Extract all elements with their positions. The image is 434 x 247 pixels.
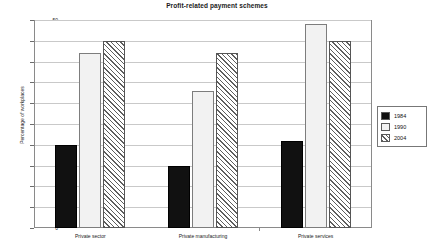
bar-group bbox=[147, 20, 260, 228]
bar-1984-1[interactable] bbox=[55, 145, 77, 228]
legend-label-1984: 1984 bbox=[394, 112, 406, 120]
bar-1990-1[interactable] bbox=[79, 53, 101, 228]
legend-swatch-icon-1990 bbox=[381, 123, 390, 131]
x-axis-label: Private services bbox=[259, 233, 372, 239]
x-axis-separator bbox=[259, 228, 260, 231]
y-tick-mark bbox=[30, 228, 34, 229]
bar-1984-2[interactable] bbox=[168, 166, 190, 228]
y-axis-title: Percentage of workplaces bbox=[19, 55, 25, 175]
x-axis-label: Private manufacturing bbox=[147, 233, 260, 239]
legend-swatch-icon-1984 bbox=[381, 112, 390, 120]
x-axis-label: Private sector bbox=[34, 233, 147, 239]
bar-2004-1[interactable] bbox=[103, 41, 125, 228]
legend-label-2004: 2004 bbox=[394, 134, 406, 142]
bar-2004-3[interactable] bbox=[329, 41, 351, 228]
legend-item-1990[interactable]: 1990 bbox=[381, 121, 423, 132]
bar-2004-2[interactable] bbox=[216, 53, 238, 228]
bar-1984-3[interactable] bbox=[281, 141, 303, 228]
bar-1990-3[interactable] bbox=[305, 24, 327, 228]
legend-item-1984[interactable]: 1984 bbox=[381, 110, 423, 121]
bar-group bbox=[259, 20, 372, 228]
bar-group bbox=[34, 20, 147, 228]
chart-container: Profit-related payment schemes Percentag… bbox=[0, 0, 434, 247]
legend-swatch-icon-2004 bbox=[381, 134, 390, 142]
chart-title: Profit-related payment schemes bbox=[0, 2, 434, 9]
chart-legend: 1984 1990 2004 bbox=[377, 106, 427, 147]
legend-item-2004[interactable]: 2004 bbox=[381, 132, 423, 143]
legend-label-1990: 1990 bbox=[394, 123, 406, 131]
bars-layer bbox=[34, 20, 372, 228]
bar-1990-2[interactable] bbox=[192, 91, 214, 228]
